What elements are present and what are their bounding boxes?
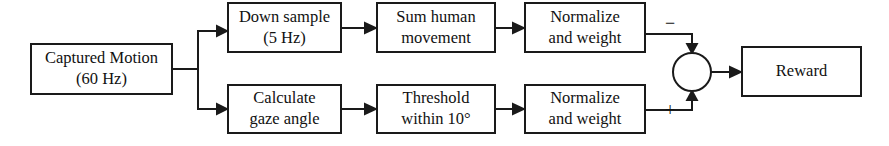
minus-sign-label: − xyxy=(665,13,675,33)
sum-human-movement-label-line2: movement xyxy=(401,28,471,47)
normalize-top-label-line1: Normalize xyxy=(550,7,620,26)
arrowhead-icon xyxy=(364,103,378,116)
edge-summovement-to-normalizetop xyxy=(495,22,526,35)
sum-human-movement-box[interactable]: Sum human movement xyxy=(377,3,495,52)
edge-captured-to-gaze xyxy=(198,69,229,116)
edge-threshold-to-normalizebottom xyxy=(495,103,526,116)
calculate-gaze-angle-box[interactable]: Calculate gaze angle xyxy=(228,85,341,133)
reward-box[interactable]: Reward xyxy=(742,47,861,96)
edge-junction-to-reward xyxy=(711,66,743,79)
threshold-box[interactable]: Threshold within 10° xyxy=(377,85,495,133)
edge-captured-to-downsample xyxy=(172,25,229,70)
captured-motion-box[interactable]: Captured Motion (60 Hz) xyxy=(31,44,172,94)
threshold-label-line1: Threshold xyxy=(403,88,471,107)
edge-normalizetop-to-junction xyxy=(645,34,699,55)
arrowhead-icon xyxy=(729,66,743,79)
connector-line xyxy=(172,31,216,69)
diagram-canvas: Captured Motion (60 Hz) Down sample (5 H… xyxy=(0,0,889,146)
block-diagram: Captured Motion (60 Hz) Down sample (5 H… xyxy=(0,0,889,146)
calculate-gaze-label-line1: Calculate xyxy=(253,88,315,107)
captured-motion-label-line2: (60 Hz) xyxy=(76,69,127,88)
arrowhead-icon xyxy=(512,103,526,116)
normalize-top-label-line2: and weight xyxy=(549,28,622,47)
summing-junction[interactable] xyxy=(673,53,711,91)
normalize-and-weight-bottom-box[interactable]: Normalize and weight xyxy=(525,85,645,133)
connector-line xyxy=(645,34,692,44)
down-sample-label-line2: (5 Hz) xyxy=(263,28,306,47)
connector-line xyxy=(198,69,216,109)
arrowhead-icon xyxy=(512,22,526,35)
calculate-gaze-label-line2: gaze angle xyxy=(249,109,319,128)
down-sample-label-line1: Down sample xyxy=(239,7,330,26)
arrowhead-icon xyxy=(364,22,378,35)
normalize-and-weight-top-box[interactable]: Normalize and weight xyxy=(525,3,645,52)
sum-human-movement-label-line1: Sum human xyxy=(396,7,475,26)
normalize-bottom-label-line2: and weight xyxy=(549,109,622,128)
down-sample-box[interactable]: Down sample (5 Hz) xyxy=(228,3,341,52)
edge-downsample-to-summovement xyxy=(341,22,378,35)
edge-gaze-to-threshold xyxy=(341,103,378,116)
normalize-bottom-label-line1: Normalize xyxy=(550,88,620,107)
captured-motion-label-line1: Captured Motion xyxy=(45,48,158,67)
reward-label: Reward xyxy=(776,61,828,80)
plus-sign-label: + xyxy=(665,100,675,120)
threshold-label-line2: within 10° xyxy=(401,109,470,128)
summing-junction-circle xyxy=(673,53,711,91)
